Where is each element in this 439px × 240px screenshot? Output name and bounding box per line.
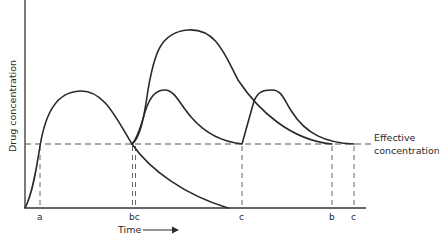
effective-concentration-label-line1: Effective	[374, 132, 416, 143]
effective-concentration-label-line2: concentration	[374, 145, 439, 156]
marker-label-c2: c	[351, 212, 356, 222]
marker-label-c1: c	[239, 212, 244, 222]
x-axis-label: Time	[117, 224, 141, 235]
y-axis-label: Drug concentration	[7, 60, 18, 152]
marker-label-b: b	[329, 212, 335, 222]
curve-double-dose	[132, 30, 332, 144]
drug-concentration-diagram: a bc c b c Time Drug concentration Effec…	[0, 0, 439, 240]
curve-repeated-dose	[132, 90, 354, 144]
curve-single-dose	[25, 91, 228, 208]
marker-label-a: a	[37, 212, 43, 222]
arrow-right-icon	[172, 227, 179, 234]
marker-label-bc: bc	[129, 212, 140, 222]
